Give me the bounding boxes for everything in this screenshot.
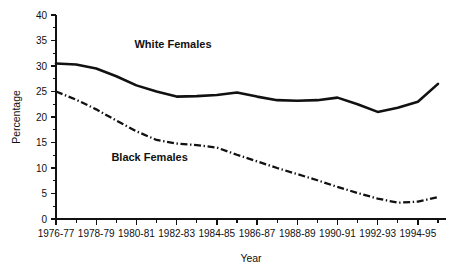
series-annotation: White Females	[134, 38, 211, 50]
x-axis-ticks	[56, 219, 438, 225]
x-tick-label: 1994-95	[400, 228, 437, 239]
x-axis-tick-labels: 1976-771978-791980-811982-831984-851986-…	[38, 228, 437, 239]
series-line-white-females	[56, 63, 438, 111]
series-annotation: Black Females	[111, 151, 187, 163]
y-tick-label: 30	[36, 61, 48, 72]
x-tick-label: 1982-83	[158, 228, 195, 239]
y-tick-label: 25	[36, 86, 48, 97]
y-tick-label: 0	[41, 214, 47, 225]
x-tick-label: 1978-79	[78, 228, 115, 239]
x-tick-label: 1980-81	[118, 228, 155, 239]
y-axis-tick-labels: 0510152025303540	[36, 10, 48, 225]
y-tick-label: 15	[36, 137, 48, 148]
x-tick-label: 1986-87	[239, 228, 276, 239]
y-axis-title: Percentage	[10, 90, 22, 144]
line-chart: 0510152025303540 1976-771978-791980-8119…	[0, 0, 468, 267]
x-tick-label: 1976-77	[38, 228, 75, 239]
x-tick-label: 1988-89	[279, 228, 316, 239]
x-tick-label: 1984-85	[198, 228, 235, 239]
y-tick-label: 20	[36, 112, 48, 123]
x-tick-label: 1990-91	[319, 228, 356, 239]
y-tick-label: 5	[41, 188, 47, 199]
x-tick-label: 1992-93	[359, 228, 396, 239]
y-tick-label: 35	[36, 35, 48, 46]
chart-container: 0510152025303540 1976-771978-791980-8119…	[0, 0, 468, 267]
y-tick-label: 40	[36, 10, 48, 21]
y-tick-label: 10	[36, 163, 48, 174]
series-layer	[56, 63, 438, 202]
series-line-black-females	[56, 92, 438, 203]
x-axis-title: Year	[240, 252, 262, 264]
